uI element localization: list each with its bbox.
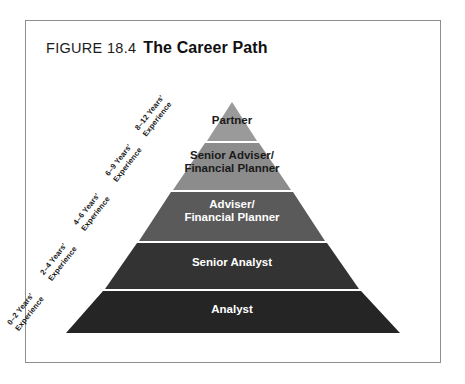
pyramid-tier-adviser: [139, 192, 325, 241]
pyramid-tier-senior-adviser: [173, 143, 291, 190]
pyramid-tier-analyst: [66, 291, 400, 333]
figure-container: FIGURE 18.4The Career Path Partner Senio…: [0, 0, 465, 384]
pyramid-svg: [25, 20, 441, 363]
career-path-pyramid: Partner Senior Adviser/ Financial Planne…: [25, 20, 441, 363]
pyramid-tier-senior-analyst: [105, 243, 359, 289]
pyramid-tier-partner: [207, 102, 257, 141]
